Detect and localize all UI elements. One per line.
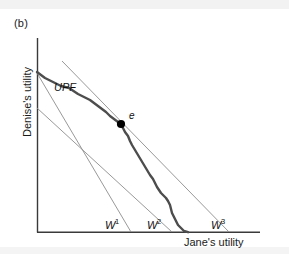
welfare-label-w2: W 2 xyxy=(147,217,161,231)
upf-curve-label: UPF xyxy=(54,81,77,93)
figure-panel-b: (b) Denise's utility Jane's utility e UP… xyxy=(0,0,289,254)
welfare-label-w1: W 1 xyxy=(105,217,119,231)
welfare-label-w3-sup: 3 xyxy=(221,217,225,226)
point-label-e: e xyxy=(129,110,135,121)
upf-curve xyxy=(37,72,188,232)
welfare-line-w2 xyxy=(37,108,172,232)
welfare-line-w3 xyxy=(62,61,229,232)
welfare-label-w2-sup: 2 xyxy=(157,217,161,226)
welfare-label-w1-sup: 1 xyxy=(115,217,119,226)
welfare-label-w3: W 3 xyxy=(211,217,225,231)
optimum-point-e xyxy=(117,120,125,128)
plot-area: e UPF W 1 W 2 W 3 xyxy=(0,0,289,254)
